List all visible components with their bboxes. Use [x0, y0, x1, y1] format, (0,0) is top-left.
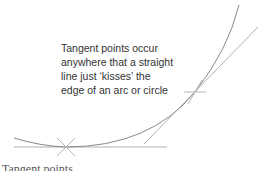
- caption-text: Tangent points occur anywhere that a str…: [61, 41, 191, 97]
- caption-line: Tangent points occur: [61, 41, 191, 55]
- caption-line: edge of an arc or circle: [61, 83, 191, 97]
- caption-line: line just ‘kisses’ the: [61, 69, 191, 83]
- footer-label: Tangent points: [2, 162, 73, 171]
- caption-line: anywhere that a straight: [61, 55, 191, 69]
